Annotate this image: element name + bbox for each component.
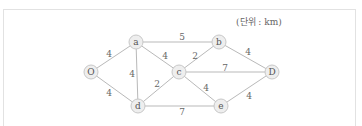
edge-weight-label: 4	[245, 47, 251, 57]
node-label: d	[135, 101, 141, 111]
edge-a-c	[136, 42, 179, 72]
node-D: D	[265, 65, 279, 79]
node-O: O	[84, 65, 98, 79]
edge-weight-label: 4	[162, 51, 168, 61]
node-label: e	[218, 101, 223, 111]
edge-weight-label: 4	[203, 83, 209, 93]
edge-weight-label: 7	[222, 63, 228, 73]
node-c: c	[172, 65, 186, 79]
edge-weight-label: 2	[192, 51, 198, 61]
edge-d-c	[138, 72, 179, 106]
edge-weight-label: 7	[179, 107, 185, 117]
edge-c-e	[179, 72, 221, 106]
node-label: a	[133, 37, 139, 47]
node-label: b	[216, 37, 222, 47]
node-b: b	[212, 35, 226, 49]
edge-weight-label: 5	[179, 32, 185, 42]
network-graph: 444542274744 OabcDde	[0, 0, 362, 126]
node-label: c	[176, 67, 181, 77]
edge-a-d	[136, 42, 138, 106]
edge-weight-label: 4	[129, 69, 135, 79]
node-d: d	[131, 99, 145, 113]
node-label: O	[87, 67, 94, 77]
edge-weight-label: 4	[246, 91, 252, 101]
node-a: a	[129, 35, 143, 49]
node-e: e	[214, 99, 228, 113]
edge-O-a	[91, 42, 136, 72]
edge-weight-label: 4	[106, 88, 112, 98]
edge-weight-label: 4	[106, 49, 112, 59]
node-label: D	[268, 67, 275, 77]
edge-weight-label: 2	[154, 79, 160, 89]
